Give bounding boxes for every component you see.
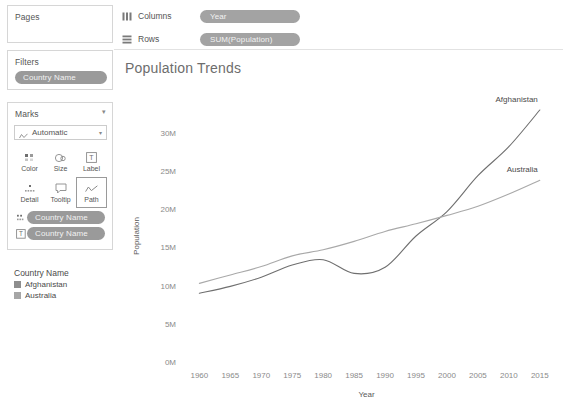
- x-tick-label: 2015: [531, 371, 549, 380]
- marks-button-size[interactable]: Size: [45, 146, 76, 177]
- legend-swatch-icon: [14, 281, 21, 288]
- tableau-worksheet: Pages Filters Country Name Marks ▾ Autom…: [0, 0, 563, 418]
- y-axis-title: Population: [132, 217, 141, 255]
- left-panel: Pages Filters Country Name Marks ▾ Autom…: [0, 0, 114, 418]
- line-chart[interactable]: 0M5M10M15M20M25M30M 19601965197019751980…: [114, 50, 563, 418]
- series-label-afghanistan: Afghanistan: [496, 95, 538, 104]
- y-tick-label: 30M: [160, 129, 176, 138]
- size-circles-icon: [54, 151, 67, 164]
- y-tick-label: 10M: [160, 282, 176, 291]
- x-axis-ticks: 1960196519701975198019851990199520002005…: [190, 371, 549, 380]
- x-tick-label: 1965: [221, 371, 239, 380]
- chevron-down-icon[interactable]: ▾: [102, 108, 106, 116]
- y-tick-label: 25M: [160, 167, 176, 176]
- marks-pill-label-label[interactable]: Country Name: [27, 227, 105, 240]
- columns-shelf[interactable]: Columns Year: [114, 5, 563, 27]
- svg-text:T: T: [89, 154, 94, 161]
- marks-button-tooltip-label: Tooltip: [50, 196, 70, 203]
- y-tick-label: 20M: [160, 205, 176, 214]
- marks-button-detail-label: Detail: [21, 196, 39, 203]
- mark-type-label: Automatic: [32, 126, 68, 139]
- x-tick-label: 2010: [500, 371, 518, 380]
- pages-card-title: Pages: [8, 6, 112, 22]
- color-squares-icon: [24, 151, 35, 164]
- color-legend-title: Country Name: [7, 268, 113, 278]
- detail-dots-icon: [24, 182, 36, 195]
- rows-shelf-label: Rows: [138, 34, 200, 44]
- x-tick-label: 2000: [438, 371, 456, 380]
- y-tick-label: 5M: [165, 320, 176, 329]
- label-text-icon: T: [14, 228, 27, 239]
- marks-button-detail[interactable]: Detail: [14, 177, 45, 208]
- pages-card: Pages: [7, 5, 113, 43]
- label-text-icon: T: [86, 151, 97, 164]
- svg-text:T: T: [18, 230, 22, 237]
- filters-card-title: Filters: [8, 51, 112, 67]
- marks-pill-list: Country Name T Country Name: [14, 211, 109, 243]
- x-tick-label: 1975: [283, 371, 301, 380]
- x-tick-label: 2005: [469, 371, 487, 380]
- color-legend: Country Name Afghanistan Australia: [7, 268, 113, 320]
- marks-button-path[interactable]: Path: [76, 177, 107, 208]
- x-tick-label: 1990: [376, 371, 394, 380]
- marks-button-path-label: Path: [84, 196, 98, 203]
- marks-pill-detail[interactable]: Country Name: [14, 211, 109, 224]
- rows-shelf-pill-population[interactable]: SUM(Population): [200, 33, 300, 46]
- y-axis-ticks: 0M5M10M15M20M25M30M: [160, 129, 176, 367]
- y-tick-label: 15M: [160, 243, 176, 252]
- marks-button-grid: Color Size T: [14, 146, 107, 208]
- filters-card: Filters Country Name: [7, 50, 113, 90]
- legend-item-afghanistan-label: Afghanistan: [25, 280, 67, 289]
- marks-button-size-label: Size: [54, 165, 68, 172]
- x-tick-label: 1985: [345, 371, 363, 380]
- filter-pill-country-name[interactable]: Country Name: [15, 71, 107, 84]
- marks-card-title: Marks: [8, 103, 112, 119]
- x-axis-title: Year: [358, 390, 375, 399]
- legend-item-australia-label: Australia: [25, 291, 56, 300]
- chart-series-group: [199, 110, 539, 293]
- series-label-australia: Australia: [507, 165, 539, 174]
- columns-shelf-label: Columns: [138, 11, 200, 21]
- tooltip-bubble-icon: [55, 182, 67, 195]
- legend-item-australia[interactable]: Australia: [7, 291, 113, 300]
- legend-swatch-icon: [14, 292, 21, 299]
- rows-icon: [122, 35, 138, 44]
- chevron-down-icon[interactable]: ▾: [99, 127, 102, 140]
- marks-pill-detail-label[interactable]: Country Name: [27, 211, 105, 224]
- marks-button-color[interactable]: Color: [14, 146, 45, 177]
- path-line-icon: [85, 182, 98, 195]
- x-tick-label: 1995: [407, 371, 425, 380]
- series-line-australia[interactable]: [199, 180, 539, 283]
- marks-button-label-label: Label: [83, 165, 100, 172]
- x-tick-label: 1980: [314, 371, 332, 380]
- legend-item-afghanistan[interactable]: Afghanistan: [7, 280, 113, 289]
- marks-pill-label[interactable]: T Country Name: [14, 227, 109, 240]
- y-tick-label: 0M: [165, 358, 176, 367]
- marks-card: Marks ▾ Automatic ▾: [7, 102, 113, 250]
- x-tick-label: 1960: [190, 371, 208, 380]
- shelf-panel: Columns Year Rows SUM(Population): [114, 0, 563, 50]
- series-labels: AfghanistanAustralia: [496, 95, 539, 174]
- columns-icon: [122, 12, 138, 21]
- columns-shelf-pill-year[interactable]: Year: [200, 10, 300, 23]
- marks-button-color-label: Color: [21, 165, 38, 172]
- path-line-icon: [19, 130, 28, 143]
- mark-type-select[interactable]: Automatic ▾: [14, 125, 107, 140]
- marks-button-tooltip[interactable]: Tooltip: [45, 177, 76, 208]
- x-tick-label: 1970: [252, 371, 270, 380]
- rows-shelf[interactable]: Rows SUM(Population): [114, 28, 563, 50]
- viz-canvas[interactable]: Population Trends 0M5M10M15M20M25M30M 19…: [114, 50, 563, 418]
- detail-dots-icon: [14, 212, 27, 223]
- marks-button-label[interactable]: T Label: [76, 146, 107, 177]
